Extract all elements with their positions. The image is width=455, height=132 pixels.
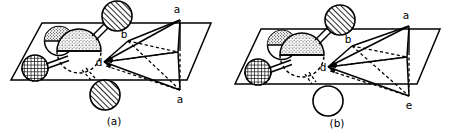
diagram-panel-a: a b d a (a): [0, 0, 228, 132]
axial-bottom-atom-a: [90, 80, 120, 110]
vertex-label-d-a: d: [96, 56, 103, 68]
bond-central-bottom-a: [82, 68, 95, 80]
vertex-label-bottom-a: a: [177, 93, 183, 105]
central-atom-b: [280, 33, 324, 77]
figure-container: a b d a (a): [0, 0, 455, 132]
axial-bottom-atom-b: [313, 86, 343, 116]
lower-left-atom-b: [245, 59, 271, 85]
panel-caption-b: (b): [330, 117, 345, 129]
vertex-label-bottom-b: e: [406, 99, 412, 111]
diagram-panel-b: a b d e (b): [227, 0, 455, 132]
vertex-label-d-b: d: [320, 61, 327, 73]
panel-caption-a: (a): [107, 115, 122, 127]
vertex-label-b-b: b: [345, 33, 352, 45]
axial-top-atom-b: [325, 5, 355, 35]
vertex-label-top-b: a: [403, 9, 409, 21]
axial-top-atom-a: [102, 1, 132, 31]
vertex-label-top-a: a: [174, 3, 180, 15]
central-atom-a: [57, 29, 101, 73]
vertex-label-b-a: b: [121, 28, 128, 40]
lower-left-atom-a: [22, 55, 48, 81]
